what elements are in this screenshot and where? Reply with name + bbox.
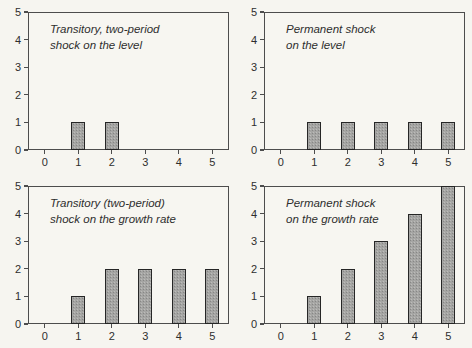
x-axis-tick <box>381 324 382 328</box>
bar-x1 <box>307 122 321 150</box>
y-axis-tick-label: 2 <box>251 89 257 100</box>
bar-x5 <box>205 269 219 324</box>
x-axis-tick <box>414 150 415 154</box>
y-axis-tick <box>24 323 28 324</box>
y-axis-tick-label: 1 <box>15 291 21 302</box>
y-axis-tick-label: 2 <box>251 263 257 274</box>
x-axis-tick-label: 1 <box>311 157 317 168</box>
chart-title: Transitory (two-period) shock on the gro… <box>50 195 176 227</box>
bar-x5 <box>441 186 455 324</box>
y-axis-tick <box>260 94 264 95</box>
bar-x1 <box>307 296 321 324</box>
bar-x2 <box>105 122 119 150</box>
x-axis-tick-label: 3 <box>378 157 384 168</box>
bar-x2 <box>341 269 355 324</box>
x-axis-tick-label: 4 <box>412 157 418 168</box>
x-axis-tick <box>414 324 415 328</box>
y-axis-tick-label: 0 <box>15 319 21 330</box>
x-axis-tick-label: 1 <box>75 331 81 342</box>
bar-x5 <box>441 122 455 150</box>
y-axis-tick <box>260 268 264 269</box>
y-axis-tick-label: 1 <box>15 117 21 128</box>
plot-area: Permanent shock on the level 01234501234… <box>264 12 465 150</box>
x-axis-tick <box>145 150 146 154</box>
y-axis-tick <box>24 268 28 269</box>
chart-panel-permanent-level: Permanent shock on the level 01234501234… <box>236 0 472 174</box>
x-axis-tick <box>212 324 213 328</box>
chart-title-line2: shock on the growth rate <box>50 213 176 225</box>
chart-title-line1: Permanent shock <box>286 197 376 209</box>
x-axis-tick <box>111 150 112 154</box>
y-axis-tick <box>24 94 28 95</box>
chart-title-line1: Transitory, two-period <box>50 23 160 35</box>
y-axis-tick-label: 2 <box>15 89 21 100</box>
y-axis-tick-label: 5 <box>251 7 257 18</box>
x-axis-tick <box>212 150 213 154</box>
x-axis-tick-label: 2 <box>109 157 115 168</box>
y-axis-tick <box>24 213 28 214</box>
x-axis-tick-label: 0 <box>42 331 48 342</box>
x-axis-tick <box>111 324 112 328</box>
bar-x3 <box>138 269 152 324</box>
y-axis-tick <box>260 185 264 186</box>
y-axis-tick-label: 1 <box>251 291 257 302</box>
bar-x4 <box>172 269 186 324</box>
x-axis-tick-label: 4 <box>176 157 182 168</box>
y-axis-tick-label: 3 <box>15 62 21 73</box>
chart-title-line2: shock on the level <box>50 39 142 51</box>
y-axis-tick <box>24 149 28 150</box>
x-axis-tick-label: 5 <box>209 157 215 168</box>
x-axis-tick-label: 1 <box>311 331 317 342</box>
x-axis-tick <box>347 324 348 328</box>
y-axis-tick-label: 4 <box>251 208 257 219</box>
x-axis-tick <box>44 150 45 154</box>
x-axis-tick <box>448 150 449 154</box>
x-axis-tick-label: 4 <box>412 331 418 342</box>
bar-x3 <box>374 122 388 150</box>
chart-title: Transitory, two-period shock on the leve… <box>50 21 160 53</box>
x-axis-tick <box>44 324 45 328</box>
y-axis-tick <box>260 67 264 68</box>
impulse-response-figure: Transitory, two-period shock on the leve… <box>0 0 472 348</box>
plot-area: Transitory, two-period shock on the leve… <box>28 12 229 150</box>
bar-x4 <box>408 122 422 150</box>
bar-x3 <box>374 241 388 324</box>
y-axis-tick-label: 0 <box>251 319 257 330</box>
bar-x1 <box>71 296 85 324</box>
y-axis-tick <box>260 213 264 214</box>
x-axis-tick <box>314 150 315 154</box>
plot-area: Permanent shock on the growth rate 01234… <box>264 186 465 324</box>
chart-panel-permanent-growth: Permanent shock on the growth rate 01234… <box>236 174 472 348</box>
x-axis-tick-label: 5 <box>445 157 451 168</box>
y-axis-tick-label: 4 <box>15 34 21 45</box>
y-axis-tick-label: 3 <box>15 236 21 247</box>
x-axis-tick-label: 4 <box>176 331 182 342</box>
x-axis-tick-label: 3 <box>142 157 148 168</box>
x-axis-tick <box>280 324 281 328</box>
x-axis-tick-label: 5 <box>445 331 451 342</box>
y-axis-tick <box>24 185 28 186</box>
bar-x1 <box>71 122 85 150</box>
bar-x2 <box>341 122 355 150</box>
y-axis-tick <box>24 11 28 12</box>
y-axis-tick <box>24 39 28 40</box>
x-axis-tick <box>178 150 179 154</box>
x-axis-tick <box>381 150 382 154</box>
y-axis-tick <box>260 122 264 123</box>
x-axis-tick <box>280 150 281 154</box>
x-axis-tick-label: 5 <box>209 331 215 342</box>
y-axis-tick-label: 4 <box>251 34 257 45</box>
chart-title: Permanent shock on the growth rate <box>286 195 379 227</box>
y-axis-tick <box>260 149 264 150</box>
x-axis-tick-label: 3 <box>142 331 148 342</box>
x-axis-tick-label: 3 <box>378 331 384 342</box>
x-axis-tick <box>178 324 179 328</box>
x-axis-tick <box>314 324 315 328</box>
y-axis-tick <box>24 67 28 68</box>
y-axis-tick <box>260 11 264 12</box>
x-axis-tick <box>145 324 146 328</box>
y-axis-tick-label: 2 <box>15 263 21 274</box>
x-axis-tick-label: 2 <box>345 331 351 342</box>
x-axis-tick <box>347 150 348 154</box>
y-axis-tick <box>260 296 264 297</box>
